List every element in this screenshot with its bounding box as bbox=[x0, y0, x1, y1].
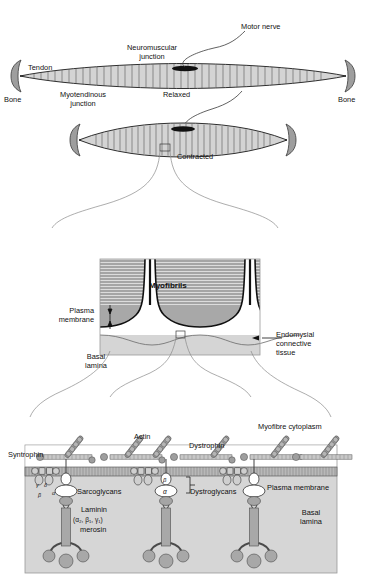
label-sarcoglycan-alpha: α bbox=[52, 489, 55, 498]
label-sarcoglycan-delta: δ bbox=[44, 481, 47, 490]
syntrophin-globule-6 bbox=[89, 457, 95, 463]
label-relaxed-state: Relaxed bbox=[163, 90, 190, 99]
label-alpha-dystroglycan: α bbox=[163, 487, 167, 496]
label-merosin: merosin bbox=[80, 525, 106, 534]
syntrophin-globule-4 bbox=[240, 453, 247, 460]
label-basal-lamina-detail: Basal lamina bbox=[68, 352, 124, 370]
label-neuromuscular-junction: Neuromuscular junction bbox=[106, 43, 198, 61]
label-dystrophin: Dystrophin bbox=[189, 441, 224, 450]
bone-right-icon bbox=[345, 60, 355, 92]
label-myofibre-cytoplasm: Myofibre cytoplasm bbox=[258, 422, 322, 431]
figure-root: Motor nerve Neuromuscular junction Tendo… bbox=[0, 0, 366, 584]
syntrophin-globule-5 bbox=[292, 453, 299, 460]
bone-left-icon bbox=[11, 60, 21, 92]
label-laminin-chains: (α₂, β₁, γ₁) bbox=[73, 515, 103, 524]
label-laminin: Laminin bbox=[81, 505, 107, 514]
label-actin: Actin bbox=[134, 432, 150, 441]
label-sarcoglycan-beta: β bbox=[38, 491, 41, 500]
syntrophin-globule-3 bbox=[170, 453, 177, 460]
label-dystroglycans: Dystroglycans bbox=[190, 487, 236, 496]
label-beta-dystroglycan: β bbox=[163, 476, 166, 485]
label-myofibrils: Myofibrils bbox=[149, 281, 187, 290]
label-sarcoglycan-gamma: γ bbox=[36, 481, 39, 490]
syntrophin-globule-7 bbox=[159, 457, 165, 463]
label-sarcoglycans: Sarcoglycans bbox=[77, 487, 121, 496]
label-plasma-membrane-molecular: Plasma membrane bbox=[267, 483, 329, 492]
label-tendon: Tendon bbox=[28, 63, 52, 72]
label-motor-nerve: Motor nerve bbox=[241, 22, 280, 31]
label-endomysial-tissue: Endomysial connective tissue bbox=[276, 330, 314, 358]
dystrophin-rod-3 bbox=[180, 455, 232, 459]
contracted-muscle-graphic bbox=[0, 100, 366, 240]
funnel-line-right-1 bbox=[170, 151, 278, 228]
syntrophin-globule-8 bbox=[229, 457, 235, 463]
label-syntrophin: Syntrophin bbox=[8, 450, 43, 459]
label-contracted-state: Contracted bbox=[177, 152, 213, 161]
syntrophin-globule-2 bbox=[100, 453, 107, 460]
label-basal-lamina-molecular: Basal lamina bbox=[286, 508, 336, 526]
neuromuscular-junction-plate-contracted bbox=[171, 126, 195, 132]
funnel-line-left-1 bbox=[52, 151, 160, 228]
label-plasma-membrane-detail: Plasma membrane bbox=[8, 306, 94, 324]
